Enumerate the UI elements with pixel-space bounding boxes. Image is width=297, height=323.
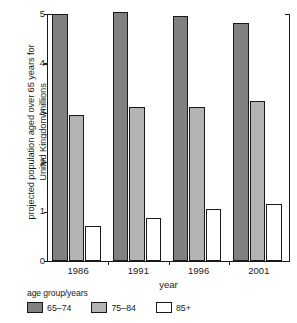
bar-1991-85+ [146, 218, 162, 261]
y-axis-title-wrapper: projected population aged over 65 years … [0, 0, 30, 265]
x-tick-label-1991: 1991 [128, 265, 149, 277]
bar-1996-85+ [206, 209, 222, 261]
x-tick-separator [108, 261, 109, 265]
bar-1991-65-74 [113, 12, 129, 261]
y-tick-label: 2 [29, 156, 45, 168]
bar-1986-75-84 [69, 115, 85, 261]
x-tick-label-1986: 1986 [68, 265, 89, 277]
legend: age group/years 65–7475–8485+ [27, 288, 289, 313]
axis-top-stub-right [285, 14, 289, 15]
legend-label: 65–74 [47, 303, 71, 313]
bar-1986-85+ [85, 226, 101, 261]
bar-2001-85+ [266, 204, 282, 261]
legend-item-75-84: 75–84 [91, 302, 155, 313]
legend-label: 85+ [176, 303, 191, 313]
bar-1986-65-74 [52, 14, 68, 261]
bar-2001-65-74 [233, 23, 249, 261]
plot-area: 012345 1986199119962001 [47, 14, 290, 262]
legend-item-65-74: 65–74 [27, 302, 91, 313]
x-tick-label-2001: 2001 [248, 265, 269, 277]
legend-items: 65–7475–8485+ [27, 302, 289, 313]
bar-chart-figure: projected population aged over 65 years … [0, 0, 297, 323]
legend-swatch [156, 302, 172, 313]
bar-1996-75-84 [189, 107, 205, 261]
legend-title: age group/years [27, 288, 289, 298]
y-tick-label: 5 [29, 8, 45, 20]
y-tick-label: 4 [29, 57, 45, 69]
bar-1996-65-74 [173, 16, 189, 261]
y-tick-label: 3 [29, 106, 45, 118]
bar-2001-75-84 [250, 101, 266, 261]
legend-swatch [27, 302, 43, 313]
bar-1991-75-84 [129, 107, 145, 261]
x-tick-separator [169, 261, 170, 265]
x-tick-separator [229, 261, 230, 265]
y-axis-title: projected population aged over 65 years … [26, 6, 49, 258]
y-tick-label: 0 [29, 255, 45, 267]
legend-swatch [91, 302, 107, 313]
y-tick-label: 1 [29, 205, 45, 217]
legend-label: 75–84 [111, 303, 135, 313]
legend-item-85+: 85+ [156, 302, 211, 313]
x-tick-label-1996: 1996 [188, 265, 209, 277]
